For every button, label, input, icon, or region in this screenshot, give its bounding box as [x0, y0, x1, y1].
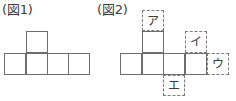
figures-canvas: (図1) (図2) ア イ ウ エ: [0, 0, 236, 101]
figure-2-label-u-text: ウ: [212, 58, 224, 70]
figure-1-cell-top: [26, 31, 48, 53]
figure-2-label-box-e: エ: [163, 75, 185, 96]
figure-2-label-box-a: ア: [142, 10, 164, 31]
figure-2-cell-row-2: [142, 53, 164, 75]
figure-1-caption: (図1): [2, 2, 33, 17]
figure-2-cell-top: [142, 31, 164, 53]
figure-1-cell-row-3: [47, 53, 69, 75]
figure-2-caption: (図2): [97, 2, 128, 17]
figure-2-label-box-i: イ: [185, 31, 207, 53]
figure-2-label-box-u: ウ: [207, 53, 229, 75]
figure-2-cell-row-4: [185, 53, 207, 75]
figure-1-cell-row-4: [68, 53, 90, 75]
figure-2-label-a-text: ア: [147, 14, 159, 26]
figure-1-cell-row-1: [4, 53, 26, 75]
figure-2-label-i-text: イ: [190, 36, 202, 48]
figure-2-cell-row-1: [120, 53, 142, 75]
figure-1-cell-row-2: [26, 53, 48, 75]
figure-2-cell-row-3: [163, 53, 185, 75]
figure-2-label-e-text: エ: [168, 79, 180, 91]
